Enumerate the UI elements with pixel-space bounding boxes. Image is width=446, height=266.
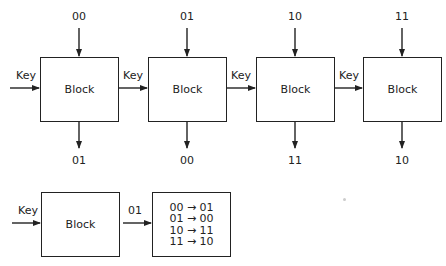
- block-4-label: Block: [388, 83, 418, 96]
- block-3-input-label: 10: [288, 11, 302, 23]
- block-2-input-label: 01: [180, 11, 194, 23]
- bottom-block: Block: [41, 192, 120, 257]
- block-2-key-label: Key: [123, 70, 143, 82]
- block-4: Block: [363, 57, 442, 122]
- block-3: Block: [256, 57, 335, 122]
- bottom-key-label: Key: [18, 205, 38, 217]
- block-1-output-label: 01: [72, 155, 86, 167]
- block-3-label: Block: [281, 83, 311, 96]
- mapping-row: 01 → 00: [169, 213, 213, 225]
- bottom-block-label: Block: [66, 218, 96, 231]
- bottom-arrow-label: 01: [128, 205, 142, 217]
- block-3-key-label: Key: [231, 70, 251, 82]
- stray-dot: [343, 198, 346, 201]
- block-4-input-label: 11: [395, 11, 409, 23]
- mapping-table: 00 → 01 01 → 00 10 → 11 11 → 10: [152, 192, 231, 257]
- block-2-label: Block: [173, 83, 203, 96]
- block-1: Block: [40, 57, 119, 122]
- block-4-key-label: Key: [339, 70, 359, 82]
- block-4-output-label: 10: [395, 155, 409, 167]
- block-1-input-label: 00: [72, 11, 86, 23]
- block-1-label: Block: [65, 83, 95, 96]
- block-2-output-label: 00: [180, 155, 194, 167]
- block-2: Block: [148, 57, 227, 122]
- block-3-output-label: 11: [288, 155, 302, 167]
- mapping-row: 11 → 10: [169, 236, 213, 248]
- block-1-key-label: Key: [16, 70, 36, 82]
